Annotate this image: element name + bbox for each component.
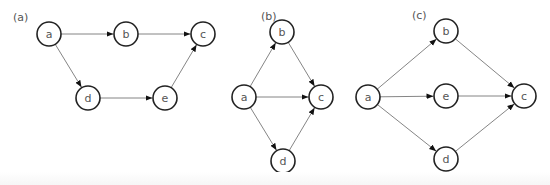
edge-a-to-d <box>55 44 81 87</box>
panel-a: (a) abcde <box>13 11 215 110</box>
node-a: a <box>37 22 61 46</box>
node-label: b <box>123 28 130 41</box>
node-label: a <box>241 91 248 104</box>
edge-d-to-c <box>455 104 514 152</box>
node-c: c <box>309 85 333 109</box>
edge-b-to-c <box>455 39 514 88</box>
node-a: a <box>232 85 256 109</box>
node-label: c <box>318 91 324 104</box>
edge-a-to-b <box>377 39 436 89</box>
edge-d-to-c <box>289 108 315 151</box>
directed-graphs-figure: (a) abcde (b) bacd (c) baecd <box>0 0 550 185</box>
edge-a-to-e <box>380 96 434 97</box>
node-label: a <box>46 28 53 41</box>
node-label: c <box>521 90 527 103</box>
node-e: e <box>434 84 458 108</box>
node-d: d <box>271 149 295 173</box>
node-b: b <box>114 22 138 46</box>
edge-e-to-c <box>171 45 197 88</box>
node-label: e <box>443 90 450 103</box>
node-b: b <box>434 19 458 43</box>
node-c: c <box>512 84 536 108</box>
node-a: a <box>356 85 380 109</box>
edge-a-to-d <box>250 107 276 150</box>
edge-b-to-c <box>288 42 314 86</box>
node-b: b <box>270 20 294 44</box>
node-e: e <box>153 86 177 110</box>
node-label: b <box>443 25 450 38</box>
node-label: a <box>365 91 372 104</box>
node-label: e <box>162 92 169 105</box>
bottom-shadow <box>0 172 550 185</box>
panel-b: (b) bacd <box>232 10 333 173</box>
node-d: d <box>434 147 458 171</box>
panel-label-b: (b) <box>261 10 277 23</box>
node-label: d <box>85 92 92 105</box>
panel-b-nodes: bacd <box>232 20 333 173</box>
panel-b-edges <box>250 42 315 150</box>
node-label: d <box>280 155 287 168</box>
node-label: c <box>200 28 206 41</box>
node-label: b <box>279 26 286 39</box>
node-label: d <box>443 153 450 166</box>
node-d: d <box>76 86 100 110</box>
panel-label-c: (c) <box>412 9 427 22</box>
panel-c-nodes: baecd <box>356 19 536 171</box>
panel-a-nodes: abcde <box>37 22 215 110</box>
panel-label-a: (a) <box>13 11 28 24</box>
edge-a-to-d <box>377 105 436 152</box>
node-c: c <box>191 22 215 46</box>
panel-c: (c) baecd <box>356 9 536 171</box>
edge-a-to-b <box>250 43 276 87</box>
